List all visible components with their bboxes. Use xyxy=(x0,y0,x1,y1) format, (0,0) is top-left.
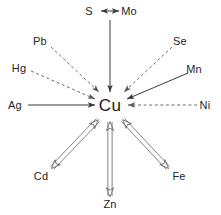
node-label-pb: Pb xyxy=(33,35,47,47)
edge-se-to-cu xyxy=(124,47,172,92)
edge-hg-to-cu xyxy=(31,71,95,99)
node-label-ni: Ni xyxy=(200,99,211,111)
node-label-mo: Mo xyxy=(121,5,137,17)
edge-zn-to-cu xyxy=(108,122,112,196)
node-label-hg: Hg xyxy=(12,62,26,74)
copper-interaction-diagram: S Mo Pb Se Hg Mn Ag Ni Cd Zn Fe Cu xyxy=(0,0,221,215)
edge-cd-to-cu xyxy=(50,119,99,170)
node-label-ag: Ag xyxy=(8,99,22,111)
node-label-cd: Cd xyxy=(34,170,48,182)
node-label-mn: Mn xyxy=(186,63,202,75)
edge-fe-to-cu xyxy=(121,119,169,170)
edge-pb-to-cu xyxy=(51,47,99,92)
node-label-fe: Fe xyxy=(172,170,185,182)
node-label-zn: Zn xyxy=(103,198,116,210)
node-label-cu: Cu xyxy=(99,96,122,116)
node-label-s: S xyxy=(85,5,93,17)
edge-mn-to-cu xyxy=(127,73,188,99)
node-label-se: Se xyxy=(173,35,187,47)
